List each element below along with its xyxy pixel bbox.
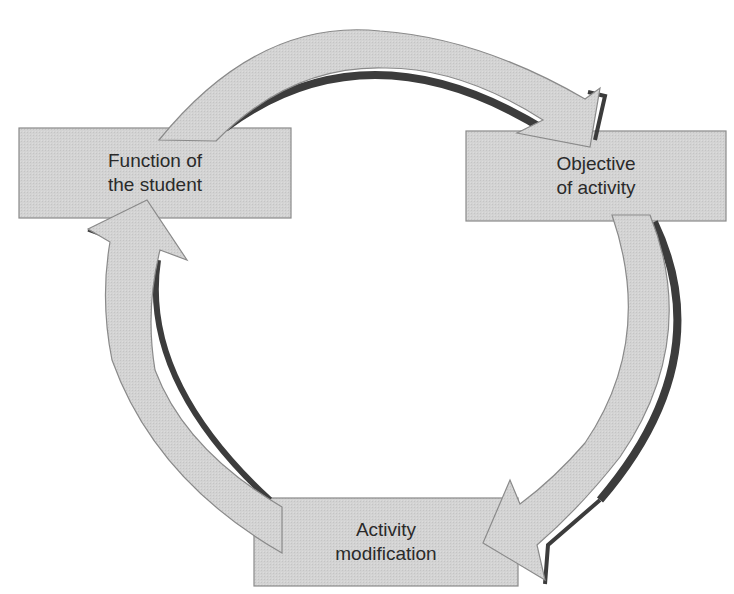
arrow-modification-to-function (88, 200, 282, 553)
cycle-diagram (0, 0, 734, 594)
box-objective-of-activity (466, 131, 726, 221)
arrow-objective-to-modification (483, 215, 677, 584)
box-activity-modification (254, 498, 518, 586)
box-function-of-student (19, 128, 291, 218)
arrow-function-to-objective (159, 30, 605, 147)
